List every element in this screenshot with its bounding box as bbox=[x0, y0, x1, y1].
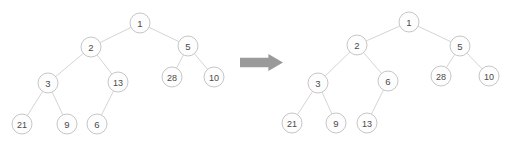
node-label: 1 bbox=[137, 18, 142, 29]
tree-edge bbox=[52, 92, 63, 115]
tree-edge bbox=[177, 55, 184, 68]
node-label: 6 bbox=[94, 119, 99, 130]
tree-edge bbox=[56, 53, 84, 76]
tree-edge bbox=[27, 91, 42, 115]
tree-edge bbox=[100, 27, 131, 42]
node-label: 3 bbox=[45, 78, 50, 89]
tree-node-28: 28 bbox=[431, 66, 451, 86]
tree-node-1: 1 bbox=[399, 12, 419, 32]
tree-node-6: 6 bbox=[378, 71, 398, 91]
right-block-arrow-icon bbox=[240, 54, 283, 71]
tree-edge bbox=[325, 52, 350, 76]
tree-node-21: 21 bbox=[282, 113, 302, 133]
node-label: 1 bbox=[406, 17, 411, 28]
tree-node-5: 5 bbox=[450, 36, 470, 56]
tree-node-3: 3 bbox=[38, 73, 58, 93]
node-label: 3 bbox=[315, 78, 320, 89]
tree-node-10: 10 bbox=[479, 66, 499, 86]
tree-edge bbox=[364, 53, 382, 74]
tree-node-10: 10 bbox=[204, 67, 224, 87]
node-label: 13 bbox=[362, 119, 372, 129]
node-label: 10 bbox=[209, 73, 219, 83]
tree-edge bbox=[446, 54, 454, 67]
binary-tree-transformation-diagram: 1253132810219612536281021913 bbox=[0, 0, 512, 142]
tree-node-6: 6 bbox=[87, 114, 107, 134]
node-label: 5 bbox=[185, 41, 190, 52]
node-label: 28 bbox=[167, 73, 177, 83]
node-label: 28 bbox=[436, 72, 446, 82]
tree-edge bbox=[467, 53, 482, 69]
tree-edge bbox=[297, 91, 312, 114]
node-label: 21 bbox=[287, 119, 297, 129]
tree-node-5: 5 bbox=[178, 36, 198, 56]
tree-node-13: 13 bbox=[108, 72, 128, 92]
tree-node-1: 1 bbox=[130, 13, 150, 33]
tree-node-2: 2 bbox=[347, 35, 367, 55]
node-label: 21 bbox=[17, 120, 27, 130]
node-label: 2 bbox=[88, 42, 93, 53]
tree-edge bbox=[149, 27, 179, 41]
tree-node-13: 13 bbox=[357, 113, 377, 133]
tree-node-21: 21 bbox=[12, 114, 32, 134]
tree-node-2: 2 bbox=[81, 37, 101, 57]
tree-edge bbox=[322, 92, 332, 114]
node-label: 13 bbox=[113, 78, 123, 88]
tree-edge bbox=[418, 26, 451, 41]
tree-edge bbox=[97, 55, 112, 74]
node-label: 9 bbox=[333, 118, 338, 129]
tree-node-28: 28 bbox=[162, 67, 182, 87]
node-label: 6 bbox=[385, 76, 390, 87]
tree-edge bbox=[371, 90, 383, 114]
tree-node-9: 9 bbox=[57, 114, 77, 134]
transformation-arrow bbox=[240, 54, 283, 71]
node-label: 10 bbox=[484, 72, 494, 82]
tree-edge bbox=[366, 26, 400, 41]
tree-node-3: 3 bbox=[308, 73, 328, 93]
node-label: 9 bbox=[64, 119, 69, 130]
node-label: 5 bbox=[457, 41, 462, 52]
tree-edge bbox=[194, 54, 207, 70]
tree-node-9: 9 bbox=[326, 113, 346, 133]
tree-edge bbox=[101, 91, 113, 115]
node-label: 2 bbox=[354, 40, 359, 51]
diagram-canvas: 1253132810219612536281021913 bbox=[0, 0, 512, 142]
